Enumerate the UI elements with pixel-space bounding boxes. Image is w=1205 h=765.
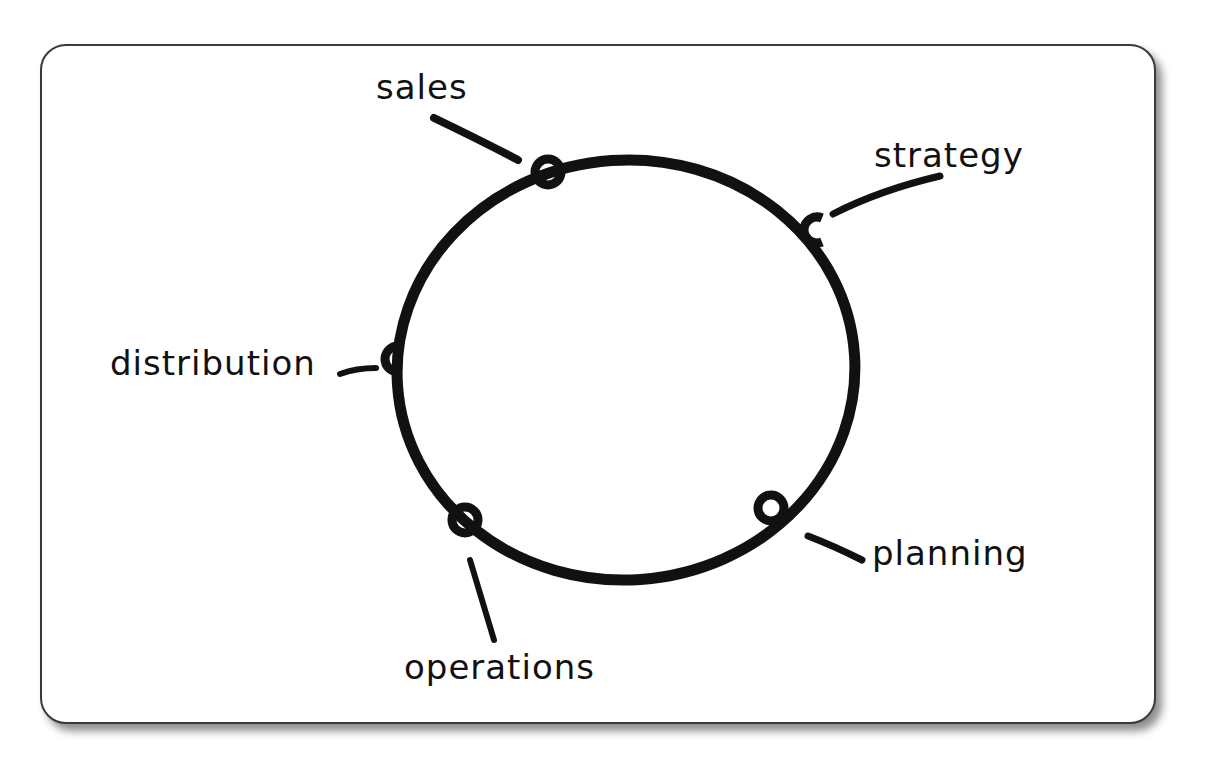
label-operations: operations [404, 650, 595, 684]
leader-line-operations [470, 560, 494, 640]
node-distribution [340, 346, 398, 374]
node-marker-planning [758, 495, 784, 521]
label-sales: sales [376, 70, 468, 104]
leader-line-distribution [340, 368, 376, 374]
label-distribution: distribution [110, 346, 316, 380]
leader-line-sales [434, 118, 518, 160]
node-marker-strategy [804, 217, 822, 243]
node-strategy [804, 176, 940, 243]
node-operations [452, 507, 494, 640]
label-planning: planning [872, 536, 1028, 570]
leader-line-strategy [833, 176, 940, 214]
label-strategy: strategy [874, 138, 1024, 172]
leader-line-planning [808, 536, 862, 560]
